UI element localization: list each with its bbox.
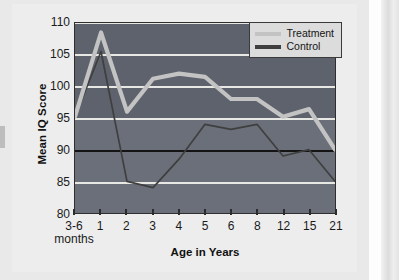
x-axis-tick-mark: [335, 209, 337, 215]
y-axis-tick-label: 100: [40, 80, 70, 92]
x-axis-tick-mark: [99, 209, 101, 215]
legend-item-treatment: Treatment: [255, 27, 334, 40]
x-axis-tick-sublabel: months: [50, 233, 98, 246]
line-chart: Mean IQ Score 11010510095908580 Treatmen…: [22, 14, 350, 262]
x-axis-tick-label: 21: [312, 220, 360, 233]
x-axis-tick-mark: [125, 209, 127, 215]
x-axis-tick-mark: [178, 209, 180, 215]
legend-label: Treatment: [287, 28, 334, 39]
legend-label: Control: [287, 41, 321, 52]
legend-swatch-icon: [255, 45, 281, 49]
page-edge-white: [369, 0, 381, 280]
x-axis-tick-mark: [256, 209, 258, 215]
x-axis-tick-mark: [309, 209, 311, 215]
page-edge-shadow: [381, 0, 399, 280]
scanned-page: Mean IQ Score 11010510095908580 Treatmen…: [0, 0, 399, 280]
y-axis-tick-label: 105: [40, 48, 70, 60]
y-axis-tick-label: 95: [40, 112, 70, 124]
x-axis-tick-mark: [152, 209, 154, 215]
chart-legend: TreatmentControl: [249, 22, 342, 58]
x-axis-tick-mark: [283, 209, 285, 215]
x-axis-tick-mark: [230, 209, 232, 215]
y-axis-tick-label: 90: [40, 144, 70, 156]
legend-item-control: Control: [255, 40, 334, 53]
page-margin-mark: [0, 126, 5, 148]
y-axis-tick-label: 85: [40, 176, 70, 188]
x-axis-title: Age in Years: [74, 246, 336, 258]
y-axis-tick-label: 110: [40, 16, 70, 28]
legend-swatch-icon: [255, 32, 281, 36]
y-axis-tick-labels: 11010510095908580: [36, 22, 70, 214]
x-axis-tick-mark: [204, 209, 206, 215]
x-axis-tick-mark: [73, 209, 75, 215]
